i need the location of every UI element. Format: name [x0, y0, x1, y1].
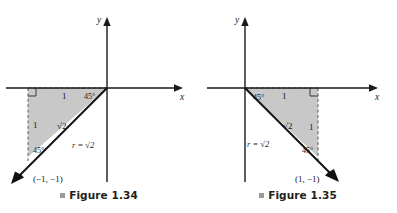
figure-pair-page: 1 45° 1 √2 45° r = √2 (−1, −1) x y Figur…: [0, 0, 397, 213]
x-axis-arrowhead: [369, 84, 378, 91]
x-axis-label: x: [374, 92, 380, 102]
leg-top-label: 1: [62, 91, 67, 101]
radius-label: r = √2: [72, 140, 95, 150]
caption-text: Figure 1.34: [69, 189, 138, 201]
angle-point-label: 45°: [302, 146, 313, 155]
x-axis-label: x: [179, 92, 185, 102]
caption-text: Figure 1.35: [268, 189, 337, 201]
hypotenuse-label: √2: [283, 121, 292, 131]
terminal-point-label: (−1, −1): [33, 174, 63, 184]
angle-origin-label: 45°: [84, 92, 95, 101]
leg-side-label: 1: [33, 120, 38, 130]
radius-label: r = √2: [247, 139, 270, 149]
x-axis-arrowhead: [174, 84, 183, 91]
coordinate-plane-1-34: 1 45° 1 √2 45° r = √2 (−1, −1) x y: [0, 0, 198, 192]
caption-bullet-icon: [259, 193, 264, 198]
y-axis-label: y: [96, 15, 102, 25]
figure-panel-1-34: 1 45° 1 √2 45° r = √2 (−1, −1) x y Figur…: [0, 0, 198, 213]
figure-caption-1-34: Figure 1.34: [0, 189, 198, 201]
y-axis-arrowhead: [103, 17, 110, 26]
terminal-point-label: (1, −1): [295, 174, 320, 184]
leg-top-label: 1: [282, 91, 287, 101]
y-axis-label: y: [234, 15, 240, 25]
leg-side-label: 1: [309, 122, 314, 132]
figure-panel-1-35: 45° 1 √2 1 45° r = √2 (1, −1) x y Figure…: [199, 0, 397, 213]
caption-bullet-icon: [60, 193, 65, 198]
y-axis-arrowhead: [241, 17, 248, 26]
hypotenuse-label: √2: [57, 121, 66, 131]
coordinate-plane-1-35: 45° 1 √2 1 45° r = √2 (1, −1) x y: [199, 0, 397, 192]
angle-point-label: 45°: [33, 146, 44, 155]
angle-origin-label: 45°: [253, 93, 264, 102]
figure-caption-1-35: Figure 1.35: [199, 189, 397, 201]
